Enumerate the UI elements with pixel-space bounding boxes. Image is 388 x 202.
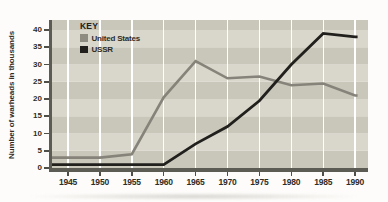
x-tick-label: 1955 (117, 177, 147, 187)
x-tick-mark (291, 172, 293, 176)
y-tick-label: 35 (20, 42, 42, 52)
legend: KEY United States USSR (80, 21, 140, 54)
ussr-swatch-icon (80, 46, 88, 54)
x-tick-mark (67, 172, 69, 176)
x-tick-mark (163, 172, 165, 176)
y-tick-label: 10 (20, 129, 42, 139)
legend-label-united-states: United States (92, 34, 141, 43)
legend-item-ussr: USSR (80, 45, 140, 54)
x-tick-label: 1985 (308, 177, 338, 187)
x-tick-label: 1975 (244, 177, 274, 187)
x-tick-label: 1945 (53, 177, 83, 187)
y-tick-label: 20 (20, 94, 42, 104)
warheads-chart-figure: Number of warheads in thousands 05101520… (0, 0, 388, 202)
y-tick-mark (44, 29, 49, 31)
page-shadow (30, 193, 358, 200)
x-tick-label: 1980 (276, 177, 306, 187)
y-tick-label: 15 (20, 111, 42, 121)
y-tick-label: 5 (20, 146, 42, 156)
y-tick-mark (44, 150, 49, 152)
legend-title: KEY (80, 21, 140, 31)
y-tick-mark (44, 46, 49, 48)
x-tick-label: 1965 (181, 177, 211, 187)
y-tick-mark (44, 133, 49, 135)
legend-item-united-states: United States (80, 34, 140, 43)
y-tick-mark (44, 115, 49, 117)
y-axis-title: Number of warheads in thousands (7, 31, 16, 159)
y-tick-mark (44, 167, 49, 169)
x-tick-mark (131, 172, 133, 176)
x-tick-mark (99, 172, 101, 176)
x-tick-mark (354, 172, 356, 176)
legend-label-ussr: USSR (92, 45, 113, 54)
x-tick-label: 1990 (340, 177, 370, 187)
y-tick-label: 40 (20, 25, 42, 35)
x-tick-label: 1960 (149, 177, 179, 187)
y-tick-mark (44, 98, 49, 100)
y-tick-label: 30 (20, 60, 42, 70)
x-tick-label: 1950 (85, 177, 115, 187)
x-tick-mark (227, 172, 229, 176)
united-states-swatch-icon (80, 34, 88, 42)
y-tick-mark (44, 81, 49, 83)
x-tick-mark (259, 172, 261, 176)
y-tick-label: 25 (20, 77, 42, 87)
x-tick-label: 1970 (213, 177, 243, 187)
y-tick-mark (44, 64, 49, 66)
x-tick-mark (195, 172, 197, 176)
y-tick-label: 0 (20, 163, 42, 173)
x-axis-line (49, 168, 369, 172)
y-axis-line (49, 20, 53, 172)
x-tick-mark (322, 172, 324, 176)
